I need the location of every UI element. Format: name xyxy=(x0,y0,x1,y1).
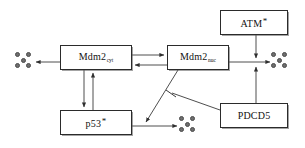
degradation-dot xyxy=(179,127,184,132)
atm-box[interactable]: ATM* xyxy=(220,10,288,35)
connector-mdm2nuc-to-p53-degradation xyxy=(146,70,178,122)
degradation-dot xyxy=(15,52,20,57)
p53-label-star: * xyxy=(102,116,107,126)
degradation-dot xyxy=(190,127,195,132)
p53-label: p53* xyxy=(86,117,107,129)
p53-box[interactable]: p53* xyxy=(60,110,132,135)
degradation-dot xyxy=(15,63,20,68)
degradation-symbol-left xyxy=(15,52,35,72)
pdcd5-label: PDCD5 xyxy=(238,111,271,121)
mdm2-cyt-label-sub: cyt xyxy=(107,57,114,63)
degradation-dot xyxy=(271,52,276,57)
degradation-dot xyxy=(26,52,31,57)
mdm2-nuc-label-main: Mdm2 xyxy=(180,51,207,62)
mdm2-cyt-box[interactable]: Mdm2cyt xyxy=(60,45,132,70)
degradation-symbol-bottom xyxy=(179,116,199,136)
pdcd5-box[interactable]: PDCD5 xyxy=(220,103,288,128)
mdm2-nuc-box[interactable]: Mdm2nuc xyxy=(167,45,229,70)
degradation-dot xyxy=(179,116,184,121)
network-diagram: Mdm2cyt Mdm2nuc p53* ATM* PDCD5 xyxy=(0,0,305,148)
degradation-dot xyxy=(26,63,31,68)
atm-label: ATM* xyxy=(241,17,268,29)
atm-label-star: * xyxy=(263,16,268,26)
atm-label-main: ATM xyxy=(241,17,263,28)
p53-label-main: p53 xyxy=(86,117,102,128)
mdm2-cyt-label-main: Mdm2 xyxy=(79,51,106,62)
degradation-dot xyxy=(282,52,287,57)
degradation-dot xyxy=(282,63,287,68)
connector-pdcd5-inhibition-stem xyxy=(172,93,220,110)
degradation-dot xyxy=(271,63,276,68)
mdm2-nuc-label-sub: nuc xyxy=(208,57,216,63)
degradation-dot xyxy=(21,58,26,63)
mdm2-cyt-label: Mdm2cyt xyxy=(79,52,114,64)
pdcd5-label-main: PDCD5 xyxy=(238,110,271,121)
degradation-dot xyxy=(185,122,190,127)
mdm2-nuc-label: Mdm2nuc xyxy=(180,52,216,64)
degradation-dot xyxy=(277,58,282,63)
degradation-symbol-right xyxy=(271,52,291,72)
degradation-dot xyxy=(190,116,195,121)
